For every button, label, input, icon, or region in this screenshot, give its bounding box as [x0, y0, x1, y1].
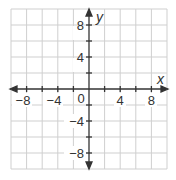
y-tick-label: 8: [77, 18, 84, 33]
x-tick-label: −8: [16, 93, 31, 108]
x-tick-label: 4: [117, 93, 124, 108]
y-axis-label: y: [95, 9, 104, 25]
y-tick-label: 4: [77, 50, 84, 65]
y-axis-up-arrow-icon: [86, 9, 92, 16]
y-tick-label: −8: [69, 146, 84, 161]
x-tick-label: −4: [47, 93, 62, 108]
origin-label: 0: [77, 91, 84, 106]
y-axis-down-arrow-icon: [86, 162, 92, 169]
x-tick-label: 8: [148, 93, 155, 108]
x-axis-label: x: [156, 71, 165, 87]
y-tick-label: −4: [69, 114, 84, 129]
coordinate-plane: y x 0 −8 −4 4 8 8 4 −4 −8: [0, 0, 176, 180]
